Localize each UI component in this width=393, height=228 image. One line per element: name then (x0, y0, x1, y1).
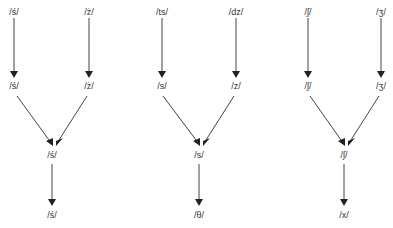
col2-bottom-node: /θ/ (194, 210, 204, 220)
col1-mid-right-node: /ż/ (84, 81, 94, 91)
arrows-layer (0, 0, 393, 228)
col3-mid-left-node: /ʃ/ (304, 81, 311, 91)
col2-mid-right-node: /z/ (231, 81, 241, 91)
col1-top-right-node: /ż/ (84, 7, 94, 17)
col1-mid-left-node: /ś/ (9, 81, 19, 91)
col2-top-left-node: /ts/ (156, 7, 168, 17)
col2-top-right-node: /dz/ (229, 7, 244, 17)
col1-merged-node: /ś/ (47, 150, 57, 160)
col3-mid-right-node: /ʒ/ (376, 81, 386, 91)
col3-merged-node: /ʃ/ (340, 150, 347, 160)
col2-mid-left-node: /s/ (157, 81, 167, 91)
col3-top-right-node: /ʒ/ (376, 7, 386, 17)
col1-bottom-node: /ś/ (47, 210, 57, 220)
col3-top-left-node: /ʃ/ (304, 7, 311, 17)
col3-bottom-node: /x/ (339, 210, 349, 220)
col1-top-left-node: /ś/ (9, 7, 19, 17)
column-1-arrows (10, 18, 93, 206)
column-3-arrows (304, 18, 385, 206)
col2-merged-node: /s/ (194, 150, 204, 160)
column-2-arrows (158, 18, 240, 206)
